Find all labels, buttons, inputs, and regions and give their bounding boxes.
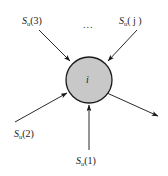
label-input-1: Su(1) — [76, 156, 96, 168]
label-input-3-argument: (3) — [30, 15, 42, 26]
arrow-input-j — [108, 30, 137, 61]
ellipsis-label: ... — [83, 20, 94, 30]
figure-canvas: i ... Su(3) Su( j ) Su(2) Su(1) — [0, 0, 168, 176]
arrow-input-3 — [39, 30, 70, 61]
label-input-3: Su(3) — [22, 16, 42, 28]
label-input-j: Su( j ) — [119, 16, 142, 28]
arrow-input-2 — [15, 93, 67, 122]
label-input-2: Su(2) — [14, 129, 34, 141]
label-input-1-argument: (1) — [84, 155, 96, 166]
label-input-j-argument: ( j ) — [127, 15, 141, 26]
arrow-output-1 — [107, 93, 158, 116]
label-input-2-argument: (2) — [22, 128, 34, 139]
node-label-i: i — [86, 75, 89, 85]
node-circle-i — [66, 57, 112, 103]
